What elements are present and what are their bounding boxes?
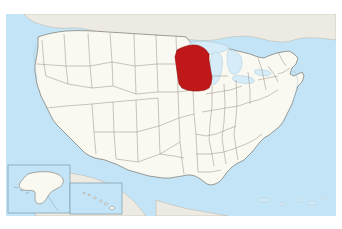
highlighted-state-wisconsin (175, 45, 212, 91)
locator-map-figure (0, 0, 342, 229)
map-frame (6, 14, 336, 216)
inset-hawaii (70, 183, 122, 214)
inset-alaska (8, 165, 70, 213)
map-svg (6, 14, 336, 216)
caption-strip (0, 216, 342, 229)
